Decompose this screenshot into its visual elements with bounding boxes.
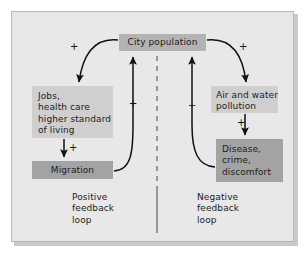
- node-disease-crime-discomfort-label: Disease, crime, discomfort: [222, 144, 283, 178]
- node-city-population[interactable]: City population: [119, 34, 206, 51]
- edge-sign-migration-to-city: +: [129, 99, 137, 109]
- node-air-water-pollution-label: Air and water pollution: [216, 90, 278, 113]
- diagram-figure: City population Jobs, health care higher…: [0, 0, 308, 259]
- node-migration[interactable]: Migration: [32, 161, 113, 179]
- node-city-population-label: City population: [119, 37, 206, 48]
- node-disease-crime-discomfort[interactable]: Disease, crime, discomfort: [216, 139, 283, 182]
- node-air-water-pollution[interactable]: Air and water pollution: [211, 86, 278, 113]
- node-migration-label: Migration: [32, 165, 113, 176]
- edge-sign-jobs-to-migration: +: [69, 143, 77, 153]
- edge-sign-pollution-to-disease: +: [237, 118, 245, 128]
- edge-sign-disease-to-city: −: [188, 101, 196, 111]
- node-jobs-label: Jobs, health care higher standard of liv…: [38, 91, 113, 137]
- caption-positive-feedback-loop: Positive feedback loop: [72, 192, 114, 226]
- node-jobs[interactable]: Jobs, health care higher standard of liv…: [32, 86, 113, 138]
- caption-negative-feedback-loop: Negative feedback loop: [197, 192, 239, 226]
- edge-sign-city-to-jobs: +: [70, 42, 78, 52]
- edge-sign-city-to-pollution: +: [239, 42, 247, 52]
